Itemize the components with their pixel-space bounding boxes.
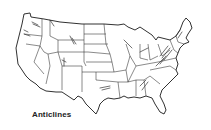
us-outline [16,13,192,114]
map-legend-label: Anticlines [32,110,71,119]
us-anticlines-map: Anticlines [0,0,211,130]
